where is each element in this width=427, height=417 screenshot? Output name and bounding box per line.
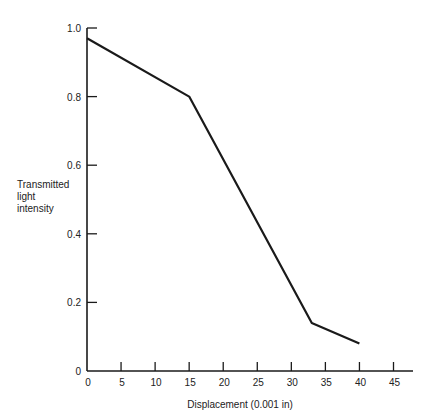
x-tick-label: 45 (389, 377, 401, 388)
y-tick-label: 0 (75, 366, 81, 377)
x-tick-label: 5 (119, 377, 125, 388)
y-tick-label: 0.6 (67, 160, 81, 171)
y-tick-label: 1.0 (67, 23, 81, 34)
y-axis-label-line-2: light (17, 191, 36, 202)
data-line (87, 38, 359, 343)
x-axis-ticks: 051015202530354045 (85, 362, 400, 388)
y-axis-label-line-3: intensity (17, 203, 54, 214)
y-tick-label: 0.8 (67, 92, 81, 103)
y-axis-ticks: 00.20.40.60.81.0 (67, 23, 97, 377)
line-chart: 051015202530354045 00.20.40.60.81.0 Disp… (0, 0, 427, 417)
x-tick-label: 15 (185, 377, 197, 388)
x-tick-label: 35 (321, 377, 333, 388)
x-tick-label: 30 (287, 377, 299, 388)
x-axis-label: Displacement (0.001 in) (187, 399, 293, 410)
x-tick-label: 25 (253, 377, 265, 388)
x-tick-label: 0 (85, 377, 91, 388)
axes (87, 28, 413, 371)
x-tick-label: 20 (219, 377, 231, 388)
y-tick-label: 0.4 (67, 229, 81, 240)
y-axis-label-line-1: Transmitted (17, 179, 69, 190)
x-tick-label: 10 (151, 377, 163, 388)
y-tick-label: 0.2 (67, 297, 81, 308)
x-tick-label: 40 (355, 377, 367, 388)
